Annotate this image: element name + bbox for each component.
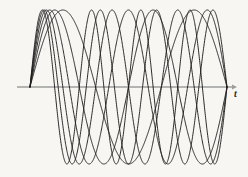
- wave-plot-canvas: [0, 0, 248, 177]
- axis-group: [17, 84, 237, 89]
- sine-wave-figure: t: [0, 0, 248, 177]
- x-axis-label-t: t: [234, 89, 237, 99]
